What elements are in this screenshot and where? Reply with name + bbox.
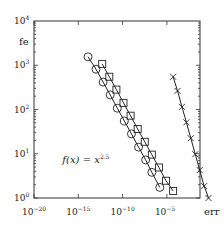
x-tick-label: 10−20 (22, 205, 46, 217)
y-tick-label: 102 (14, 103, 29, 115)
x-tick-label: 10−10 (111, 205, 135, 217)
function-annotation: f(x) = x2.5 (61, 153, 109, 165)
y-tick-label: 104 (14, 14, 29, 26)
series-line (102, 64, 173, 191)
function-label: f(x) = x2.5 (61, 153, 109, 165)
x-tick-exponent: −5 (166, 205, 175, 212)
series-line (173, 77, 208, 198)
axes: 10010110210310410−2010−1510−1010−5 (14, 14, 200, 217)
y-tick-exponent: 4 (25, 14, 29, 21)
y-tick-exponent: 3 (25, 58, 29, 65)
series-line (88, 57, 160, 188)
function-exponent: 2.5 (100, 153, 110, 160)
axis-labels: fe err (19, 36, 220, 217)
series-squares (99, 60, 177, 194)
data-series (84, 53, 211, 201)
y-tick-exponent: 1 (25, 147, 29, 154)
convergence-plot: 10010110210310410−2010−1510−1010−5 fe er… (0, 0, 224, 233)
x-tick-label: 10−5 (155, 205, 175, 217)
y-tick-exponent: 2 (25, 103, 29, 110)
plot-frame (34, 21, 200, 198)
series-circles (84, 53, 164, 192)
x-axis-label: err (204, 206, 220, 217)
x-tick-label: 10−15 (66, 205, 90, 217)
x-tick-exponent: −10 (122, 205, 135, 212)
y-tick-exponent: 0 (25, 191, 29, 198)
y-axis-label: fe (19, 36, 29, 47)
x-tick-exponent: −20 (33, 205, 46, 212)
x-tick-exponent: −15 (78, 205, 91, 212)
y-tick-label: 103 (14, 58, 29, 70)
y-tick-label: 101 (14, 147, 29, 159)
y-tick-label: 100 (14, 191, 29, 203)
series-crosses (170, 74, 211, 201)
